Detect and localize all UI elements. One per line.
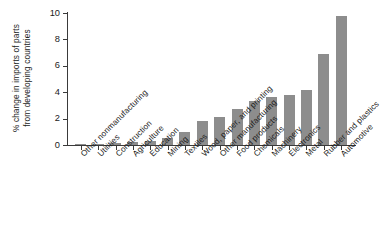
y-axis-title-line-2: from developing countries [22,29,33,127]
y-axis-tick [63,145,67,146]
y-axis-tick-label: 0 [40,141,60,150]
y-axis-tick-label: 6 [40,61,60,70]
y-axis-tick-label: 2 [40,114,60,123]
y-axis-tick-label: 10 [40,9,60,18]
y-axis-title: % change in imports of parts from develo… [5,3,39,153]
bar [336,16,347,145]
y-axis-title-line-1: % change in imports of parts [11,24,22,132]
y-axis-tick-label: 8 [40,35,60,44]
y-axis-tick-label: 4 [40,88,60,97]
